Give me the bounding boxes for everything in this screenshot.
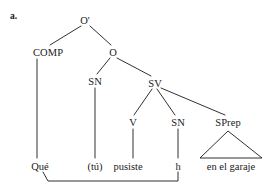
tree-node-sv: SV xyxy=(148,78,162,89)
tree-terminal-h: h xyxy=(175,161,180,172)
tree-branch-Obar-COMP xyxy=(50,26,81,45)
tree-branch-SV-SPrep xyxy=(161,88,225,115)
tree-node-sprep: SPrep xyxy=(215,117,241,128)
sprep-constituent-triangle xyxy=(200,131,262,158)
tree-branch-Obar-O xyxy=(90,26,111,45)
tree-terminal-tu: (tú) xyxy=(87,161,102,172)
tree-node-v: V xyxy=(129,117,137,128)
tree-node-o: O xyxy=(109,47,117,58)
tree-node-sn2: SN xyxy=(171,117,185,128)
tree-terminal-que: Qué xyxy=(31,161,49,172)
tree-branch-O-SV xyxy=(117,58,151,76)
tree-node-obar: O' xyxy=(80,15,90,26)
wh-movement-arc xyxy=(43,172,178,181)
tree-branch-O-SN1 xyxy=(97,58,110,74)
tree-terminal-pusiste: pusiste xyxy=(113,161,142,172)
tree-terminal-garaje: en el garaje xyxy=(207,161,255,172)
tree-node-comp: COMP xyxy=(33,47,63,58)
tree-branch-SV-V xyxy=(134,89,152,115)
syntax-tree-figure: a. O'COMPOSNSVVSNSPrep Qué(tú)pusistehen… xyxy=(0,0,277,196)
tree-node-sn1: SN xyxy=(88,76,102,87)
